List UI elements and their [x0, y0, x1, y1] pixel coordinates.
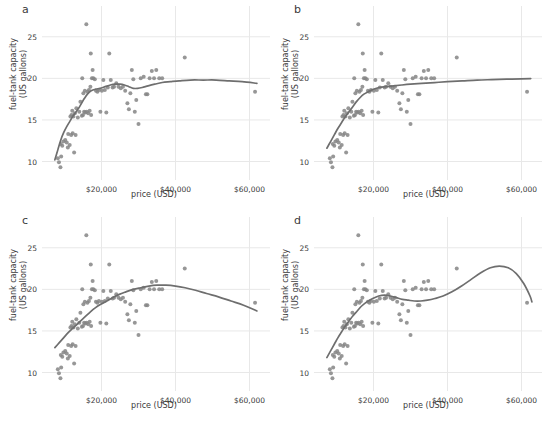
- data-point: [455, 56, 459, 60]
- data-point: [356, 233, 360, 237]
- y-tick-label-3: 25: [299, 244, 309, 253]
- data-point: [331, 155, 335, 159]
- data-point: [101, 289, 105, 293]
- data-point: [330, 165, 334, 169]
- data-point: [150, 69, 154, 73]
- data-point: [101, 78, 105, 82]
- data-point: [84, 233, 88, 237]
- data-point: [414, 75, 418, 79]
- panel-c: c fuel-tank capacity(US gallons) 1015202…: [0, 211, 272, 422]
- data-point: [109, 78, 113, 82]
- data-point: [360, 296, 364, 300]
- data-point: [403, 288, 407, 292]
- data-point: [88, 320, 92, 324]
- y-tick-label-3: 25: [27, 33, 37, 42]
- figure-panel-grid: a fuel-tank capacity(US gallons) 1015202…: [0, 0, 544, 423]
- data-point: [142, 75, 146, 79]
- data-point: [89, 113, 93, 117]
- data-point: [137, 122, 141, 126]
- y-tick-label-2: 20: [27, 74, 37, 83]
- data-point: [107, 262, 111, 266]
- data-point: [417, 303, 421, 307]
- data-point: [399, 318, 403, 322]
- data-point: [424, 76, 428, 80]
- data-point: [400, 91, 404, 95]
- data-point: [145, 92, 149, 96]
- data-point: [360, 109, 364, 113]
- data-point: [395, 300, 399, 304]
- data-point: [365, 288, 369, 292]
- data-point: [417, 92, 421, 96]
- data-point: [344, 361, 348, 365]
- y-tick-label-1: 15: [27, 327, 37, 336]
- data-point: [133, 110, 137, 114]
- data-point: [373, 289, 377, 293]
- data-point: [346, 344, 350, 348]
- data-point: [348, 115, 352, 119]
- data-point: [74, 133, 78, 137]
- data-point: [399, 107, 403, 111]
- data-point: [379, 262, 383, 266]
- data-point: [57, 160, 61, 164]
- data-point: [98, 321, 102, 325]
- data-point: [330, 376, 334, 380]
- data-point: [104, 321, 108, 325]
- y-tick-label-2: 20: [299, 74, 309, 83]
- y-tick-label-0: 10: [299, 369, 309, 378]
- data-point: [125, 101, 129, 105]
- data-point: [130, 68, 134, 72]
- data-point: [183, 56, 187, 60]
- data-point: [361, 51, 365, 55]
- data-point: [361, 324, 365, 328]
- data-point: [424, 287, 428, 291]
- scatter-points: [328, 22, 529, 169]
- x-axis-title-d: price (USD): [316, 401, 536, 410]
- data-point: [361, 262, 365, 266]
- fit-line: [55, 285, 257, 347]
- data-point: [57, 371, 61, 375]
- data-point: [78, 311, 82, 315]
- data-point: [76, 326, 80, 330]
- data-point: [128, 91, 132, 95]
- data-point: [329, 371, 333, 375]
- data-point: [363, 68, 367, 72]
- data-point: [361, 113, 365, 117]
- data-point: [160, 76, 164, 80]
- data-point: [134, 309, 138, 313]
- data-point: [93, 288, 97, 292]
- data-point: [370, 321, 374, 325]
- data-point: [131, 77, 135, 81]
- data-point: [148, 76, 152, 80]
- data-point: [379, 51, 383, 55]
- x-axis-title-b: price (USD): [316, 190, 536, 199]
- data-point: [346, 133, 350, 137]
- y-tick-label-0: 10: [299, 158, 309, 167]
- x-axis-title-a: price (USD): [44, 190, 264, 199]
- x-axis-title-c: price (USD): [44, 401, 264, 410]
- data-point: [356, 22, 360, 26]
- data-point: [66, 356, 70, 360]
- data-point: [376, 110, 380, 114]
- data-point: [89, 262, 93, 266]
- data-point: [348, 326, 352, 330]
- data-point: [370, 110, 374, 114]
- data-point: [344, 150, 348, 154]
- data-point: [338, 356, 342, 360]
- data-point: [133, 321, 137, 325]
- data-point: [420, 287, 424, 291]
- data-point: [74, 344, 78, 348]
- data-point: [125, 312, 129, 316]
- data-point: [402, 279, 406, 283]
- data-point: [154, 279, 158, 283]
- data-point: [127, 107, 131, 111]
- data-point: [402, 68, 406, 72]
- data-point: [121, 296, 125, 300]
- data-point: [400, 302, 404, 306]
- data-point: [130, 279, 134, 283]
- data-point: [376, 321, 380, 325]
- data-point: [381, 78, 385, 82]
- data-point: [329, 160, 333, 164]
- data-point: [66, 145, 70, 149]
- y-tick-label-1: 15: [299, 327, 309, 336]
- scatter-points: [328, 233, 529, 380]
